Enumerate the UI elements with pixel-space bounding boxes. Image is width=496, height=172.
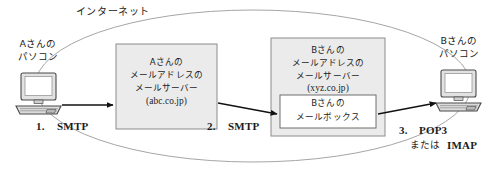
sender-mail-server-line-2: メールアドレスの: [112, 70, 221, 80]
flow-arrow-2: [218, 103, 277, 114]
receiver-mail-server-line-3: メールサーバー: [270, 71, 386, 81]
receiver-pc-label-line1: Bさんの: [423, 35, 495, 46]
internet-cloud: [35, 10, 471, 162]
flow-3-protocol: POP3: [419, 124, 467, 137]
flow-2-number: 2.: [207, 120, 221, 133]
flow-arrow-3: [378, 103, 436, 114]
receiver-mail-server-line-2: メールアドレスの: [269, 58, 387, 68]
mailbox-line-2: メールボックス: [278, 112, 378, 122]
internet-cloud-label: インターネット: [58, 6, 168, 18]
receiver-pc-label-line2: パソコン: [423, 48, 495, 59]
mailbox-line-1: Bさんの: [280, 98, 376, 108]
flow-3-protocol-alt: IMAP: [447, 139, 495, 152]
sender-mail-server-domain: (abc.co.jp): [116, 96, 217, 107]
sender-mail-server-line-3: メールサーバー: [114, 83, 219, 93]
sender-mail-server-line-1: Aさんの: [116, 57, 217, 67]
flow-1-protocol: SMTP: [57, 120, 105, 133]
receiver-mail-server-line-1: Bさんの: [271, 45, 385, 55]
receiver-mail-server-domain: (xyz.co.jp): [271, 83, 385, 94]
flow-3-number: 3.: [399, 124, 413, 137]
sender-pc-icon: [16, 73, 61, 114]
flow-1-number: 1.: [36, 120, 50, 133]
mail-delivery-diagram: インターネット Aさんの パソコン Bさんの パソコン Aさんの メールアドレス…: [0, 0, 496, 172]
flow-3-protocol-alt-prefix: または: [410, 139, 448, 150]
receiver-pc-icon: [436, 70, 481, 111]
sender-pc-label-line2: パソコン: [2, 51, 74, 62]
sender-pc-label-line1: Aさんの: [2, 38, 74, 49]
flow-2-protocol: SMTP: [228, 120, 276, 133]
